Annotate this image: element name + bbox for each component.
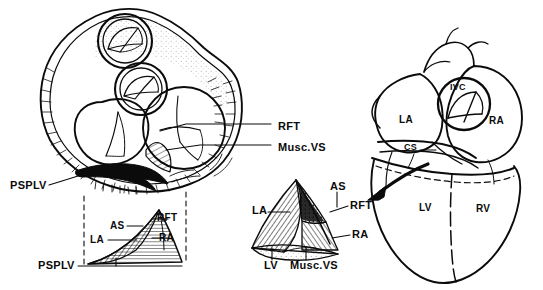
label-lv-middle-inset: LV [264, 260, 278, 271]
label-la-left-inset: LA [90, 235, 104, 245]
label-cs-heart: CS [404, 143, 417, 152]
heart-outline [371, 28, 522, 283]
right-fibrous-trigone-wedge [146, 143, 171, 172]
label-ra-left-inset: RA [159, 233, 174, 243]
figure-linework [0, 0, 543, 290]
middle-inset-block [252, 180, 338, 260]
label-rv-heart: RV [476, 204, 490, 214]
leader-lines-main [160, 124, 271, 150]
label-as-middle-inset: AS [330, 181, 346, 192]
label-psplv-left-inset: PSPLV [38, 260, 75, 271]
label-ra-middle-inset: RA [352, 229, 369, 240]
label-musc-vs-main: Musc.VS [278, 142, 326, 153]
label-psplv-main: PSPLV [10, 180, 47, 191]
figure-canvas: RFT Musc.VS PSPLV AS RFT LA RA PSPLV AS … [0, 0, 543, 290]
label-la-middle-inset: LA [252, 205, 267, 216]
label-rft-left-inset: RFT [157, 213, 177, 223]
label-rft-main: RFT [278, 121, 300, 132]
label-as-left-inset: AS [110, 221, 125, 231]
leader-line-psplv-main [49, 176, 78, 185]
label-ivc-heart: IVC [450, 83, 466, 92]
label-ra-heart: RA [489, 116, 504, 126]
label-lv-heart: LV [419, 203, 432, 213]
label-rft-middle-inset: RFT [350, 200, 372, 211]
label-la-heart: LA [399, 115, 413, 125]
label-musc-vs-middle-inset: Musc.VS [290, 260, 338, 271]
av-valve-left [75, 99, 149, 165]
